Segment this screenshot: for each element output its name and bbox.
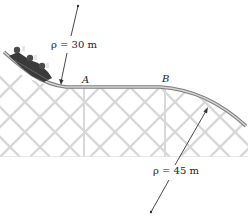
- track: [4, 52, 246, 126]
- point-a-label: A: [82, 75, 89, 85]
- radius-line-bottom: [150, 107, 208, 213]
- point-b-label: B: [162, 74, 169, 84]
- radius-label-bottom: ρ = 45 m: [153, 166, 199, 176]
- diagram-canvas: [0, 0, 248, 218]
- arrowhead-top-icon: [59, 79, 64, 85]
- arrowhead-bottom-icon: [204, 107, 209, 114]
- radius-label-top: ρ = 30 m: [51, 40, 97, 50]
- roller-coaster-diagram: ρ = 30 m ρ = 45 m A B: [0, 0, 248, 218]
